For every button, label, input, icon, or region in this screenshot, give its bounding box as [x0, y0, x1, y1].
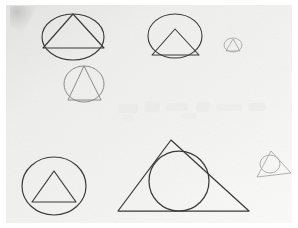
ghost-mark — [196, 102, 210, 112]
ghost-mark — [144, 101, 160, 112]
ghost-mark — [118, 104, 138, 113]
ghost-mark — [166, 103, 188, 111]
paper-sheet — [6, 5, 292, 223]
ghost-mark — [248, 103, 266, 111]
ghost-mark — [216, 104, 242, 111]
ghost-mark — [122, 114, 134, 121]
ghost-mark — [182, 113, 197, 119]
sketch-canvas: Scanned sheet of paper with seven hand-d… — [0, 0, 298, 228]
hand-drawn-geometry-sketch — [0, 0, 298, 228]
